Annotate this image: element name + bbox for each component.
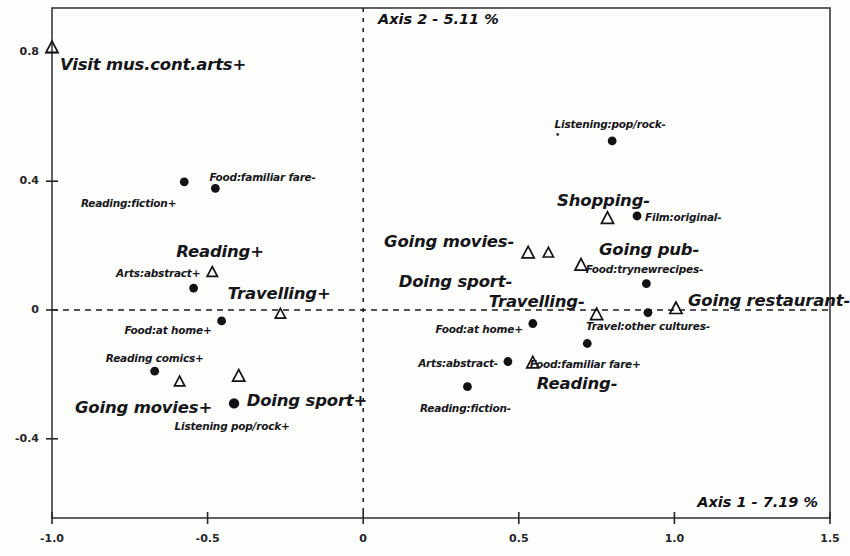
point-label: Shopping-: [557, 193, 650, 210]
x-axis-tick-label: 1.0: [665, 533, 685, 544]
data-point-circle: [504, 357, 513, 366]
point-label: Travelling-: [489, 294, 585, 311]
y-axis-tick-label: 0: [31, 304, 39, 315]
data-point-circle: [642, 279, 651, 288]
point-label: Reading comics+: [106, 353, 204, 364]
y-axis-tick-label: 0.8: [20, 46, 40, 57]
data-point-circle: [528, 319, 537, 328]
data-point-circle: [608, 137, 617, 146]
point-label: Going pub-: [599, 242, 699, 259]
point-label: Travelling+: [228, 286, 331, 303]
data-point-triangle: [543, 247, 553, 257]
point-label: Going restaurant-: [688, 293, 850, 310]
data-point-circle: [150, 367, 159, 376]
x-axis-tick-label: -1.0: [40, 533, 64, 544]
point-label: Doing sport+: [247, 393, 367, 410]
data-point-triangle: [174, 376, 184, 386]
data-point-circle: [211, 184, 220, 193]
data-point-circle: [229, 398, 239, 408]
data-point-circle: [583, 339, 592, 348]
data-point-circle: [463, 382, 472, 391]
point-label: Food:familiar fare-: [209, 172, 315, 183]
data-point-triangle: [233, 370, 245, 382]
x-axis-tick-label: 0.5: [509, 533, 529, 544]
data-point-circle: [644, 308, 653, 317]
point-label: Listening:pop/rock-: [555, 119, 666, 130]
axis1-title: Axis 1 - 7.19 %: [697, 495, 818, 510]
point-label: Arts:abstract-: [418, 358, 498, 369]
data-point-triangle: [601, 212, 613, 224]
y-axis-tick-label: -0.4: [15, 433, 39, 444]
data-point-circle: [217, 317, 226, 326]
point-label: Food:trynewrecipes-: [586, 264, 703, 275]
x-axis-tick-label: 0: [359, 533, 367, 544]
point-label: Reading-: [537, 376, 617, 393]
data-point-circle: [633, 212, 642, 221]
point-label: Film:original-: [645, 212, 721, 223]
point-label: Reading:fiction+: [81, 198, 176, 209]
plot-frame: [52, 8, 830, 518]
point-label: Reading+: [176, 244, 263, 261]
point-label: Food:at home+: [124, 325, 211, 336]
data-point-triangle: [522, 246, 534, 258]
point-label: Reading:fiction-: [420, 403, 511, 414]
data-point-circle: [180, 177, 189, 186]
point-label: Doing sport-: [399, 274, 512, 291]
y-axis-tick-label: 0.4: [20, 175, 40, 186]
data-point-triangle: [670, 302, 682, 314]
point-label: Food:familiar fare+: [530, 359, 641, 370]
point-label: Going movies+: [75, 400, 212, 417]
axis2-title: Axis 2 - 5.11 %: [378, 12, 499, 27]
point-label: Arts:abstract+: [116, 268, 200, 279]
point-label: Food:at home+: [436, 324, 523, 335]
x-axis-tick-label: 1.5: [820, 533, 840, 544]
data-point-triangle: [207, 267, 217, 277]
point-label: Listening pop/rock+: [175, 421, 290, 432]
data-point-speck: [556, 133, 559, 136]
point-label: Going movies-: [384, 234, 514, 251]
point-label: Travel:other cultures-: [586, 321, 710, 332]
x-axis-tick-label: -0.5: [196, 533, 220, 544]
data-point-circle: [189, 284, 198, 293]
point-label: Visit mus.cont.arts+: [60, 57, 246, 74]
